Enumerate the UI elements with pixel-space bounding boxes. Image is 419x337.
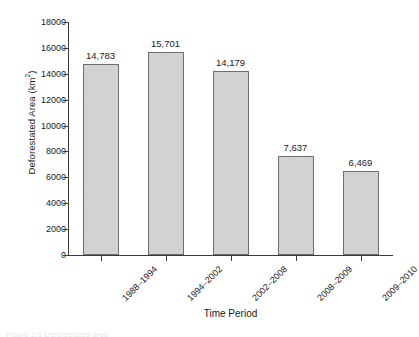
bar-value-label: 15,701 — [136, 39, 196, 49]
x-axis-tick-mark — [231, 256, 232, 261]
bar-value-label: 14,783 — [71, 51, 131, 61]
bar[interactable] — [213, 71, 249, 255]
bar-value-label: 14,179 — [201, 58, 261, 68]
y-axis-tick-label: 14000 — [2, 69, 66, 78]
x-axis-tick-mark — [361, 256, 362, 261]
y-axis-tick-label: 18000 — [2, 18, 66, 27]
y-axis-tick-label: 12000 — [2, 95, 66, 104]
y-axis-tick-label: 10000 — [2, 121, 66, 130]
y-axis-tick-labels: 0200040006000800010000120001400016000180… — [0, 0, 66, 337]
x-axis-tick-label: 1988–1994 — [120, 264, 159, 303]
y-axis-tick-label: 0 — [2, 251, 66, 260]
x-axis-tick-mark — [296, 256, 297, 261]
bar[interactable] — [83, 64, 119, 255]
figure-caption-sliver: Figure 2.1 Deforestated area — [6, 331, 306, 337]
x-axis-tick-label: 2009–2010 — [380, 264, 419, 303]
bar-value-label: 6,469 — [331, 158, 391, 168]
x-axis-tick-label: 2008–2009 — [315, 264, 354, 303]
x-axis-tick-label: 2002–2008 — [250, 264, 289, 303]
y-axis-tick-label: 2000 — [2, 225, 66, 234]
bar[interactable] — [278, 156, 314, 255]
x-axis-tick-mark — [166, 256, 167, 261]
y-axis-tick-label: 8000 — [2, 147, 66, 156]
y-axis-tick-label: 6000 — [2, 173, 66, 182]
y-axis-tick-label: 4000 — [2, 199, 66, 208]
bar[interactable] — [148, 52, 184, 255]
bar-value-label: 7,637 — [266, 143, 326, 153]
x-axis-title: Time Period — [68, 308, 393, 319]
bar[interactable] — [343, 171, 379, 255]
y-axis-tick-label: 16000 — [2, 43, 66, 52]
x-axis-tick-label: 1994–2002 — [185, 264, 224, 303]
x-axis-tick-mark — [101, 256, 102, 261]
